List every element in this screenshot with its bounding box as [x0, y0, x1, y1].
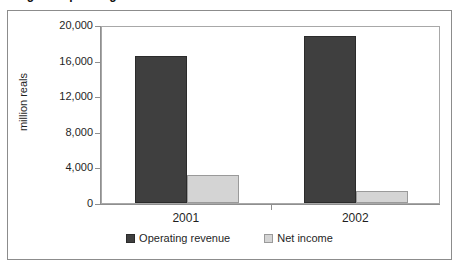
chart-legend: Operating revenueNet income	[7, 232, 452, 244]
bar-2001-net-income	[187, 175, 239, 203]
bar-2001-operating-revenue	[135, 56, 187, 203]
y-axis-tick-label: 20,000	[33, 20, 93, 31]
y-axis-tick-mark	[95, 168, 101, 169]
y-axis-title: million reals	[17, 57, 29, 147]
y-axis-tick-labels: 04,0008,00012,00016,00020,000	[28, 0, 93, 268]
y-axis-tick-mark	[95, 62, 101, 63]
legend-swatch-icon	[126, 234, 135, 243]
legend-item-net-income: Net income	[264, 232, 333, 244]
legend-label: Net income	[277, 232, 333, 244]
x-axis-tick-mark	[271, 204, 272, 210]
y-axis-tick-mark	[95, 204, 101, 205]
x-axis-category-label: 2002	[295, 211, 415, 225]
y-axis-tick-mark	[95, 26, 101, 27]
plot-area	[101, 26, 440, 204]
x-axis-category-label: 2001	[126, 211, 246, 225]
y-axis-tick-label: 4,000	[33, 162, 93, 173]
bar-2002-operating-revenue	[304, 36, 356, 203]
chart-figure: Figure: Operating revenue and net income…	[0, 0, 463, 268]
bar-2002-net-income	[356, 191, 408, 203]
y-axis-tick-label: 16,000	[33, 56, 93, 67]
bars-layer	[102, 27, 439, 203]
y-axis-tick-label: 0	[33, 198, 93, 209]
y-axis-tick-mark	[95, 133, 101, 134]
y-axis-tick-mark	[95, 97, 101, 98]
y-axis-tick-label: 12,000	[33, 91, 93, 102]
legend-swatch-icon	[264, 234, 273, 243]
legend-label: Operating revenue	[139, 232, 230, 244]
legend-item-operating-revenue: Operating revenue	[126, 232, 230, 244]
y-axis-tick-label: 8,000	[33, 127, 93, 138]
